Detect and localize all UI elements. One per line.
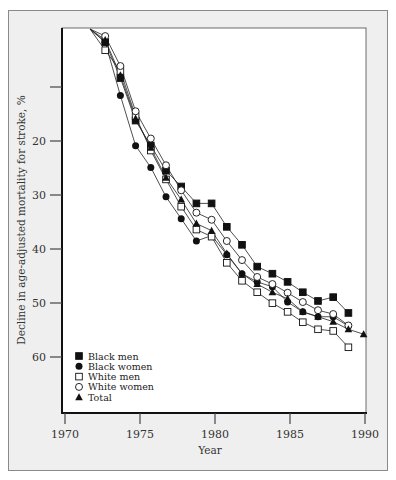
- stroke-mortality-chart: 19701975198019851990 2030405060 Year Dec…: [0, 0, 396, 480]
- open-circle-marker: [239, 257, 246, 264]
- open-square-marker: [345, 344, 352, 351]
- filled-square-marker: [254, 263, 261, 270]
- filled-square-marker: [300, 289, 307, 296]
- open-circle-marker: [269, 281, 276, 288]
- filled-square-marker: [330, 294, 337, 301]
- x-axis-title: Year: [197, 444, 222, 456]
- open-circle-marker: [193, 209, 200, 216]
- open-circle-marker: [330, 311, 337, 318]
- open-circle-marker: [147, 135, 154, 142]
- open-square-marker: [300, 319, 307, 326]
- filled-square-marker: [315, 298, 322, 305]
- x-tick-label: 1975: [126, 428, 154, 441]
- open-square-legend-icon: [76, 373, 83, 380]
- open-circle-marker: [208, 216, 215, 223]
- x-tick-label: 1985: [276, 428, 304, 441]
- y-tick-label: 50: [32, 297, 46, 310]
- filled-circle-marker: [163, 193, 170, 200]
- y-tick-label: 20: [32, 135, 46, 148]
- open-square-marker: [254, 289, 261, 296]
- open-circle-marker: [178, 187, 185, 194]
- filled-circle-marker: [132, 142, 139, 149]
- open-square-marker: [284, 309, 291, 316]
- open-square-marker: [208, 233, 215, 240]
- open-square-marker: [315, 326, 322, 333]
- y-tick-label: 30: [32, 189, 46, 202]
- filled-circle-marker: [193, 238, 200, 245]
- open-square-marker: [330, 328, 337, 335]
- open-square-marker: [102, 47, 109, 54]
- open-circle-legend-icon: [76, 383, 83, 390]
- y-axis-ticks: 2030405060: [32, 87, 62, 364]
- open-circle-marker: [132, 108, 139, 115]
- open-circle-marker: [299, 299, 306, 306]
- filled-circle-legend-icon: [76, 363, 83, 370]
- filled-square-marker: [269, 270, 276, 277]
- open-circle-marker: [315, 307, 322, 314]
- y-tick-label: 40: [32, 243, 46, 256]
- open-circle-marker: [117, 63, 124, 70]
- filled-square-marker: [345, 310, 352, 317]
- filled-square-marker: [239, 242, 246, 249]
- x-tick-label: 1970: [51, 428, 79, 441]
- y-tick-label: 60: [32, 351, 46, 364]
- open-square-marker: [178, 203, 185, 210]
- open-circle-marker: [163, 162, 170, 169]
- filled-square-marker: [193, 200, 200, 207]
- open-circle-marker: [223, 238, 230, 245]
- y-axis-title: Decline in age-adjusted mortality for st…: [15, 95, 27, 344]
- filled-circle-marker: [147, 164, 154, 171]
- filled-circle-marker: [117, 92, 124, 99]
- open-circle-marker: [254, 273, 261, 280]
- open-square-marker: [193, 226, 200, 233]
- x-axis-ticks: 19701975198019851990: [51, 413, 379, 441]
- filled-square-legend-icon: [76, 353, 83, 360]
- filled-square-marker: [224, 224, 231, 231]
- filled-circle-marker: [178, 215, 185, 222]
- open-square-marker: [239, 277, 246, 284]
- filled-square-marker: [284, 279, 291, 286]
- x-tick-label: 1980: [201, 428, 229, 441]
- filled-square-marker: [208, 200, 215, 207]
- open-square-marker: [269, 300, 276, 307]
- legend-label: Total: [88, 392, 112, 403]
- open-square-marker: [224, 260, 231, 267]
- x-tick-label: 1990: [351, 428, 379, 441]
